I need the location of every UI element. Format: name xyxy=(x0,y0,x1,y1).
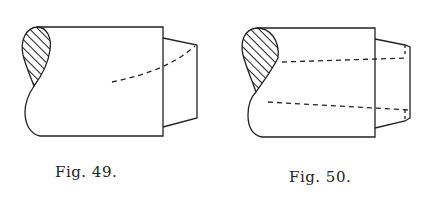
fig49-drawing xyxy=(22,27,197,136)
fig49-section-hatch xyxy=(22,27,50,86)
fig50-caption: Fig. 50. xyxy=(289,168,351,186)
figures-drawing xyxy=(0,0,433,213)
fig49-caption: Fig. 49. xyxy=(55,163,117,181)
fig50-drawing xyxy=(242,28,410,137)
fig50-section-hatch xyxy=(242,28,278,92)
fig49-spigot xyxy=(163,38,197,127)
fig49-dashed-curve xyxy=(112,46,195,82)
fig50-dashed-top xyxy=(282,58,408,62)
fig50-dashed-bottom xyxy=(268,102,408,110)
